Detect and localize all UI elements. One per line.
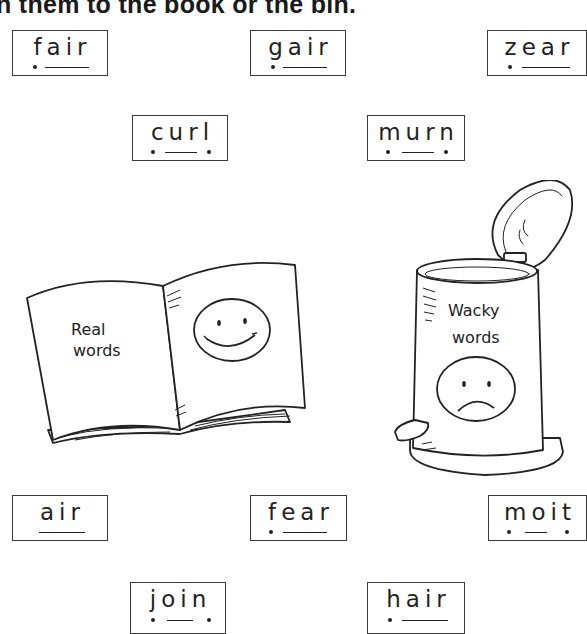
- sound-marks: [133, 147, 227, 155]
- word-card-murn[interactable]: murn: [367, 115, 465, 161]
- card-word: join: [131, 586, 225, 612]
- sound-line: [39, 532, 85, 534]
- word-card-moit[interactable]: moit: [488, 495, 587, 541]
- sound-marks: [368, 615, 464, 623]
- word-card-join[interactable]: join: [130, 582, 226, 634]
- sound-line: [167, 620, 193, 622]
- card-word: gair: [251, 34, 345, 60]
- book-label-line1: Real: [71, 320, 106, 339]
- sound-dot: [151, 618, 155, 622]
- bin-label-line1: Wacky: [448, 301, 500, 320]
- sound-dot: [386, 150, 390, 154]
- word-card-gair[interactable]: gair: [250, 30, 346, 76]
- sound-dot: [207, 618, 211, 622]
- sound-marks: [368, 147, 464, 155]
- sound-dot: [565, 530, 569, 534]
- card-word: hair: [368, 586, 464, 612]
- sound-dot: [444, 150, 448, 154]
- sound-marks: [13, 62, 107, 70]
- card-word: murn: [368, 119, 464, 145]
- card-word: moit: [489, 499, 586, 525]
- sound-dot: [271, 65, 275, 69]
- sound-line: [525, 532, 547, 534]
- sound-marks: [251, 62, 345, 70]
- sound-line: [402, 620, 448, 622]
- sound-dot: [507, 530, 511, 534]
- sound-line: [283, 532, 327, 534]
- bin-rim: [417, 259, 537, 283]
- sound-marks: [489, 527, 586, 535]
- bin-label-line2: words: [452, 328, 500, 347]
- word-card-fair[interactable]: fair: [12, 30, 108, 76]
- word-card-hair[interactable]: hair: [367, 582, 465, 634]
- sound-dot: [269, 530, 273, 534]
- sound-line: [283, 67, 327, 69]
- word-card-air[interactable]: air: [12, 495, 108, 541]
- card-word: curl: [133, 119, 227, 145]
- word-card-curl[interactable]: curl: [132, 115, 228, 161]
- real-words-book[interactable]: Real words: [15, 250, 315, 460]
- sound-dot: [33, 65, 37, 69]
- sound-marks: [488, 62, 586, 70]
- sound-marks: [131, 615, 225, 623]
- sound-dot: [508, 65, 512, 69]
- sound-dot: [207, 150, 211, 154]
- card-word: fair: [13, 34, 107, 60]
- sound-line: [45, 67, 89, 69]
- sound-marks: [251, 527, 346, 535]
- sound-line: [522, 67, 570, 69]
- word-card-fear[interactable]: fear: [250, 495, 347, 541]
- sound-line: [165, 152, 197, 154]
- card-word: zear: [488, 34, 586, 60]
- word-card-zear[interactable]: zear: [487, 30, 587, 76]
- smiley-face-icon: [194, 299, 270, 361]
- card-word: fear: [251, 499, 346, 525]
- sound-dot: [388, 618, 392, 622]
- sound-line: [402, 152, 434, 154]
- sound-marks: [13, 527, 107, 535]
- book-left-page: [27, 281, 180, 440]
- wacky-words-bin[interactable]: Wacky words: [380, 180, 585, 480]
- book-label-line2: words: [73, 341, 121, 360]
- card-word: air: [13, 499, 107, 525]
- sad-face-icon: [437, 357, 515, 421]
- sound-dot: [151, 150, 155, 154]
- instruction-heading: n them to the book or the bin.: [0, 0, 356, 19]
